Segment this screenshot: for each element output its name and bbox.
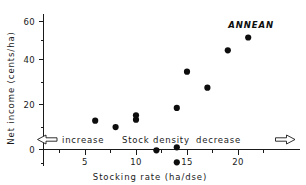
series-label-annean: ANNEAN [227, 20, 274, 30]
data-point [174, 159, 180, 165]
x-tick-label-15: 15 [181, 157, 193, 167]
x-tick-label-10: 10 [130, 157, 142, 167]
y-tick-label-0: 0 [29, 145, 35, 155]
y-tick-label-20: 20 [23, 100, 35, 110]
y-axis-title: Net income (cents/ha) [6, 31, 16, 145]
data-point [113, 124, 119, 130]
x-tick-label-5: 5 [82, 157, 88, 167]
data-point [174, 144, 180, 150]
data-point [174, 105, 180, 111]
right-arrow-icon [276, 135, 296, 144]
data-point [133, 117, 139, 123]
x-tick-label-20: 20 [232, 157, 244, 167]
x-axis-minor-ticks [60, 150, 264, 154]
y-tick-label-60: 60 [23, 17, 35, 27]
band-label-decrease: decrease [196, 135, 241, 145]
data-point [204, 85, 210, 91]
y-axis-major-ticks [39, 22, 44, 150]
band-label-increase: increase [62, 135, 104, 145]
chart-canvas: 0 20 40 60 Net income (cents/ha) 5 10 15… [0, 0, 306, 185]
data-point [225, 47, 231, 53]
y-tick-label-40: 40 [23, 55, 35, 65]
data-point [92, 118, 98, 124]
band-label-stock-density: Stock density [122, 135, 190, 145]
left-arrow-icon [38, 135, 58, 144]
scatter-chart-figure: 0 20 40 60 Net income (cents/ha) 5 10 15… [0, 0, 306, 185]
stock-density-band-row: increase Stock density decrease [38, 135, 296, 145]
x-axis-title: Stocking rate (ha/dse) [93, 172, 207, 182]
data-point [184, 69, 190, 75]
data-point [245, 34, 251, 40]
data-point [153, 147, 159, 153]
data-points-layer [92, 34, 251, 165]
